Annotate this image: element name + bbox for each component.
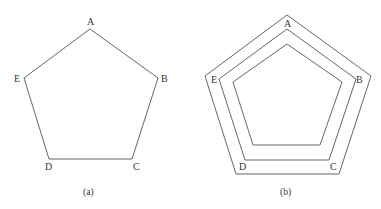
vertex-label-a-D: D <box>45 161 52 172</box>
pentagon-a <box>24 29 158 159</box>
pentagon-b-outer <box>205 15 371 174</box>
vertex-label-a-C: C <box>133 161 140 172</box>
vertex-label-b-B: B <box>356 74 363 85</box>
vertex-label-a-B: B <box>161 73 168 84</box>
figure-b: A B C D E (b) <box>205 15 371 198</box>
caption-a: (a) <box>83 187 94 198</box>
vertex-label-b-D: D <box>239 161 246 172</box>
vertex-label-b-A: A <box>284 18 292 29</box>
pentagon-b-inner <box>233 44 342 145</box>
pentagon-b-middle <box>219 29 356 160</box>
vertex-label-a-E: E <box>14 73 20 84</box>
vertex-label-b-E: E <box>211 74 217 85</box>
diagram-canvas: A B C D E (a) A B C D E (b) <box>0 0 381 209</box>
vertex-label-a-A: A <box>87 16 95 27</box>
figure-a: A B C D E (a) <box>14 16 168 198</box>
vertex-label-b-C: C <box>330 161 337 172</box>
caption-b: (b) <box>280 187 291 198</box>
